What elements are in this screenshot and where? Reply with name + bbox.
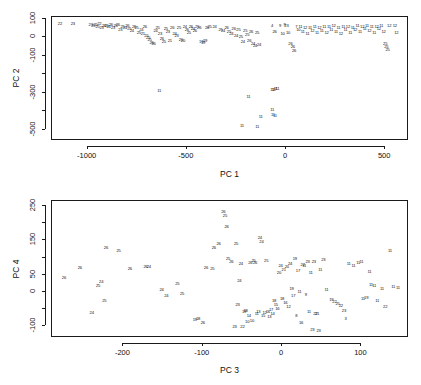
data-point-label: 11 — [309, 271, 313, 275]
data-point-label: 12 — [286, 305, 290, 309]
x-axis-title-pc3: PC 3 — [220, 366, 239, 375]
x-axis-tick-label: -500 — [178, 152, 193, 160]
data-point-label: 11 — [318, 268, 322, 272]
data-point-label: 3 — [344, 317, 346, 321]
data-point-label: 25 — [223, 214, 227, 218]
x-axis-line — [87, 146, 385, 147]
data-point-label: 25 — [264, 259, 268, 263]
data-point-label: 16 — [299, 321, 303, 325]
data-point-label: 9 — [305, 292, 307, 296]
data-point-label: 26 — [217, 242, 221, 246]
data-point-label: 11 — [379, 23, 383, 27]
x-axis-tick — [285, 146, 286, 149]
data-point-label: 23 — [236, 303, 240, 307]
data-point-label: 23 — [71, 22, 75, 26]
data-point-label: 25 — [236, 28, 240, 32]
data-point-label: 11 — [380, 287, 384, 291]
data-point-label: 23 — [342, 309, 346, 313]
y-axis-tick — [42, 239, 45, 240]
data-point-label: 11 — [301, 30, 305, 34]
x-axis-tick — [384, 146, 385, 149]
data-point-label: 11 — [240, 124, 244, 128]
x-axis-tick — [202, 343, 203, 346]
data-point-label: 25 — [207, 25, 211, 29]
data-point-label: 24 — [288, 262, 292, 266]
data-point-label: 11 — [359, 260, 363, 264]
data-point-label: 24 — [164, 294, 168, 298]
x-axis-tick-label: 500 — [378, 152, 391, 160]
y-axis-tick — [42, 222, 45, 223]
data-point-label: 25 — [177, 26, 181, 30]
y-axis-tick-label: 250 — [29, 199, 37, 212]
data-point-label: 22 — [58, 22, 62, 26]
x-axis-tick-label: 100 — [354, 349, 367, 357]
data-point-label: 11 — [320, 29, 324, 33]
data-point-label: 23 — [166, 30, 170, 34]
y-axis-tick — [42, 325, 45, 326]
data-point-label: 10 — [280, 32, 284, 36]
data-point-label: 18 — [196, 317, 200, 321]
data-point-label: 23 — [158, 32, 162, 36]
data-point-label: 11 — [259, 115, 263, 119]
data-point-label: 12 — [303, 26, 307, 30]
data-point-label: 12 — [324, 30, 328, 34]
data-point-label: 11 — [370, 25, 374, 29]
data-point-label: 11 — [334, 30, 338, 34]
data-point-label: 12 — [310, 29, 314, 33]
data-point-label: 11 — [358, 30, 362, 34]
data-point-label: 24 — [90, 311, 94, 315]
x-axis-tick — [281, 343, 282, 346]
data-point-label: 22 — [383, 305, 387, 309]
data-point-label: 10 — [286, 30, 290, 34]
data-point-label: 24 — [99, 280, 103, 284]
data-point-label: 26 — [201, 321, 205, 325]
y-axis-line — [45, 205, 46, 325]
data-point-label: 11 — [246, 95, 250, 99]
data-point-label: 24 — [159, 288, 163, 292]
data-point-label: 24 — [229, 32, 233, 36]
data-point-label: 26 — [204, 266, 208, 270]
data-point-label: 25 — [102, 299, 106, 303]
data-point-label: 26 — [143, 25, 147, 29]
data-point-label: 11 — [275, 87, 279, 91]
data-point-label: 25 — [386, 48, 390, 52]
pca-panel-pc3-pc4: 2626242524252625262624242425251918262625… — [0, 192, 421, 385]
data-point-label: 26 — [272, 30, 276, 34]
data-point-label: 11 — [157, 89, 161, 93]
data-point-label: 11 — [367, 270, 371, 274]
data-point-label: 23 — [310, 328, 314, 332]
y-axis-tick-label: -100 — [29, 47, 37, 62]
y-axis-tick-label: -100 — [29, 317, 37, 332]
data-point-label: 17 — [291, 294, 295, 298]
y-axis-tick-label: 100 — [29, 12, 37, 25]
x-axis-tick — [360, 343, 361, 346]
data-point-label: 12 — [367, 29, 371, 33]
data-point-label: 24 — [130, 29, 134, 33]
data-point-label: 19 — [203, 39, 207, 43]
data-point-label: 11 — [307, 310, 311, 314]
x-axis-tick — [87, 146, 88, 149]
data-point-label: 21 — [168, 39, 172, 43]
y-axis-tick — [42, 55, 45, 56]
data-point-label: 19 — [290, 287, 294, 291]
data-point-label: 11 — [255, 125, 259, 129]
y-axis-tick-label: 150 — [29, 233, 37, 246]
data-point-label: 12 — [393, 24, 397, 28]
data-point-label: 11 — [344, 28, 348, 32]
data-point-label: 26 — [253, 261, 257, 265]
data-point-label: 25 — [117, 249, 121, 253]
y-axis-title-pc4: PC 4 — [12, 259, 21, 278]
data-point-label: 11 — [322, 25, 326, 29]
data-point-label: 14 — [270, 312, 274, 316]
data-point-label: 12 — [394, 31, 398, 35]
data-point-label: 12 — [387, 24, 391, 28]
y-axis-tick-label: 0 — [29, 34, 37, 38]
data-point-label: 11 — [388, 249, 392, 253]
data-point-label: 20 — [181, 39, 185, 43]
data-point-label: 9 — [279, 24, 281, 28]
data-point-label: 24 — [241, 40, 245, 44]
data-point-label: 26 — [197, 26, 201, 30]
data-point-label: 11 — [348, 31, 352, 35]
data-point-label: 22 — [240, 325, 244, 329]
data-point-label: 12 — [339, 32, 343, 36]
